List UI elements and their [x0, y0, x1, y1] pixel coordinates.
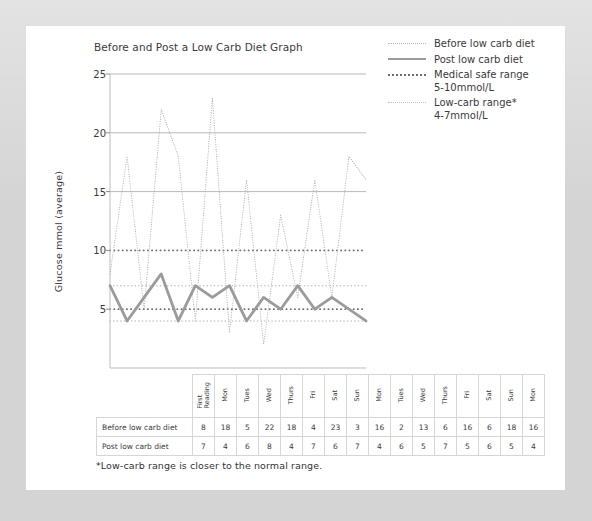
table-column-header: Wed — [259, 375, 281, 418]
table-cell: 5 — [413, 437, 435, 456]
table-column-header: Thurs — [435, 375, 457, 418]
table-cell: 4 — [369, 437, 391, 456]
table-column-header: Thurs — [281, 375, 303, 418]
table-column-header: Fri — [303, 375, 325, 418]
table-cell: 5 — [457, 437, 479, 456]
table-cell: 18 — [501, 418, 523, 437]
table-cell: 5 — [237, 418, 259, 437]
table-cell: 4 — [303, 418, 325, 437]
table-column-header: Wed — [413, 375, 435, 418]
table-cell: 6 — [325, 437, 347, 456]
table-cell: 18 — [281, 418, 303, 437]
series-line-before-low-carb-diet — [110, 98, 366, 345]
table-cell: 4 — [281, 437, 303, 456]
table-cell: 16 — [457, 418, 479, 437]
table-cell: 6 — [391, 437, 413, 456]
table-column-header: First Reading — [193, 375, 215, 418]
table-cell: 7 — [435, 437, 457, 456]
table-cell: 16 — [369, 418, 391, 437]
table-cell: 13 — [413, 418, 435, 437]
table-cell: 6 — [479, 418, 501, 437]
table-cell: 8 — [259, 437, 281, 456]
table-cell: 22 — [259, 418, 281, 437]
table-header-row: First ReadingMonTuesWedThursFriSatSunMon… — [97, 375, 545, 418]
table-cell: 4 — [215, 437, 237, 456]
data-table-container: First ReadingMonTuesWedThursFriSatSunMon… — [96, 374, 538, 456]
table-cell: 6 — [479, 437, 501, 456]
table-column-header: Sun — [501, 375, 523, 418]
series-line-post-low-carb-diet — [110, 274, 366, 321]
table-column-header: Sat — [325, 375, 347, 418]
table-cell: 2 — [391, 418, 413, 437]
table-row: Post low carb diet7468476746575654 — [97, 437, 545, 456]
table-column-header: Fri — [457, 375, 479, 418]
data-table: First ReadingMonTuesWedThursFriSatSunMon… — [96, 374, 545, 456]
table-column-header: Mon — [215, 375, 237, 418]
table-cell: 4 — [523, 437, 545, 456]
table-cell: 7 — [347, 437, 369, 456]
table-row-label: Before low carb diet — [97, 418, 193, 437]
table-column-header: Sun — [347, 375, 369, 418]
page-background: Before and Post a Low Carb Diet Graph Be… — [0, 0, 592, 521]
table-column-header: Mon — [523, 375, 545, 418]
table-corner-cell — [97, 375, 193, 418]
table-row-label: Post low carb diet — [97, 437, 193, 456]
table-column-header: Sat — [479, 375, 501, 418]
table-cell: 3 — [347, 418, 369, 437]
table-cell: 7 — [303, 437, 325, 456]
table-cell: 6 — [237, 437, 259, 456]
table-cell: 5 — [501, 437, 523, 456]
table-cell: 7 — [193, 437, 215, 456]
table-cell: 18 — [215, 418, 237, 437]
chart-footnote: *Low-carb range is closer to the normal … — [96, 460, 322, 471]
table-cell: 8 — [193, 418, 215, 437]
table-column-header: Mon — [369, 375, 391, 418]
table-cell: 23 — [325, 418, 347, 437]
table-column-header: Tues — [237, 375, 259, 418]
chart-card: Before and Post a Low Carb Diet Graph Be… — [26, 26, 565, 490]
table-cell: 16 — [523, 418, 545, 437]
table-cell: 6 — [435, 418, 457, 437]
table-column-header: Tues — [391, 375, 413, 418]
table-row: Before low carb diet81852218423316213616… — [97, 418, 545, 437]
